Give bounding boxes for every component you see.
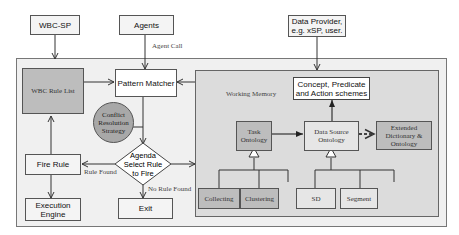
schemes-line2: and Action schemes (296, 89, 368, 98)
agenda-line3: to Fire (132, 169, 153, 178)
datasource-line2: Ontology (318, 136, 344, 144)
agenda-decision: Agenda Select Rule to Fire (115, 147, 171, 181)
schemes-box: Concept, Predicate and Action schemes (293, 77, 370, 100)
exit-label: Exit (139, 204, 152, 213)
sd-box: SD (296, 188, 336, 209)
segment-box: Segment (340, 188, 378, 209)
extended-line1: Extended (391, 124, 417, 132)
task-line1: Task (247, 128, 260, 136)
collecting-box: Collecting (198, 188, 240, 209)
fire-rule-label: Fire Rule (37, 160, 69, 169)
task-line2: Ontology (241, 136, 267, 144)
agenda-line2: Select Rule (124, 160, 162, 169)
execution-engine-box: Execution Engine (25, 198, 81, 221)
exit-box: Exit (118, 198, 173, 219)
data-source-ontology-box: Data Source Ontology (304, 121, 359, 151)
extended-line2: Dictionary & (385, 132, 422, 140)
sd-label: SD (312, 195, 321, 203)
agenda-line1: Agenda (130, 151, 156, 160)
extended-dictionary-box: Extended Dictionary & Ontology (376, 121, 432, 150)
task-ontology-box: Task Ontology (236, 121, 272, 151)
schemes-line1: Concept, Predicate (297, 80, 365, 89)
clustering-label: Clustering (245, 195, 274, 203)
fire-rule-box: Fire Rule (25, 154, 81, 175)
no-rule-found-label: No Rule Found (148, 185, 191, 193)
clustering-box: Clustering (240, 188, 279, 209)
datasource-line1: Data Source (314, 128, 348, 136)
extended-line3: Ontology (391, 140, 417, 148)
collecting-label: Collecting (204, 195, 233, 203)
execution-line2: Engine (41, 210, 66, 219)
rule-found-label: Rule Found (84, 168, 117, 176)
execution-line1: Execution (35, 201, 70, 210)
segment-label: Segment (347, 195, 372, 203)
